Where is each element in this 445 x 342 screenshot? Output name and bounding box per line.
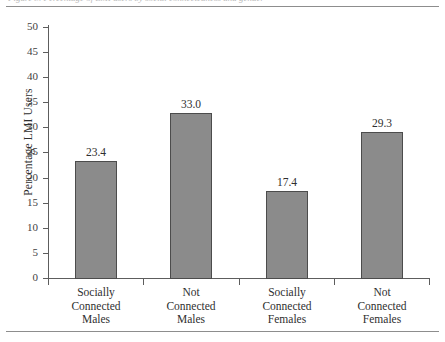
y-tick-30 — [43, 127, 48, 128]
bar-not-connected-males — [170, 113, 212, 279]
bottom-rule — [6, 331, 439, 332]
x-category-label-4-line-3: Females — [337, 313, 427, 327]
bar-value-not-connected-females: 29.3 — [352, 117, 412, 129]
bar-socially-connected-males — [75, 161, 117, 279]
y-tick-label-30: 30 — [0, 121, 38, 132]
y-axis-line — [48, 25, 49, 280]
x-category-label-2: Not Connected Males — [146, 286, 236, 327]
y-tick-35 — [43, 102, 48, 103]
x-category-label-3: Socially Connected Females — [242, 286, 332, 327]
x-category-label-4-line-1: Not — [337, 286, 427, 300]
x-category-label-3-line-2: Connected — [242, 300, 332, 314]
bar-socially-connected-females — [266, 191, 308, 279]
y-tick-label-25: 25 — [0, 146, 38, 157]
y-tick-label-15: 15 — [0, 197, 38, 208]
x-tick-divider-3 — [334, 279, 335, 285]
bar-value-not-connected-males: 33.0 — [161, 98, 221, 110]
x-category-label-1-line-2: Connected — [51, 300, 141, 314]
x-category-label-1-line-1: Socially — [51, 286, 141, 300]
x-tick-end — [429, 279, 430, 285]
x-category-label-4-line-2: Connected — [337, 300, 427, 314]
y-tick-label-5: 5 — [0, 247, 38, 258]
y-tick-20 — [43, 178, 48, 179]
y-tick-label-40: 40 — [0, 71, 38, 82]
y-tick-label-35: 35 — [0, 96, 38, 107]
x-tick-start — [48, 279, 49, 285]
x-category-label-3-line-1: Socially — [242, 286, 332, 300]
y-tick-40 — [43, 77, 48, 78]
y-tick-label-20: 20 — [0, 172, 38, 183]
y-tick-label-50: 50 — [0, 21, 38, 32]
x-tick-divider-1 — [143, 279, 144, 285]
x-category-label-1-line-3: Males — [51, 313, 141, 327]
y-tick-45 — [43, 52, 48, 53]
y-tick-15 — [43, 203, 48, 204]
y-tick-10 — [43, 228, 48, 229]
y-tick-5 — [43, 253, 48, 254]
figure-container: Figure 3. Percentage of LMI users by soc… — [0, 0, 445, 342]
x-category-label-1: Socially Connected Males — [51, 286, 141, 327]
top-rule — [6, 6, 439, 7]
y-tick-50 — [43, 27, 48, 28]
y-tick-label-10: 10 — [0, 222, 38, 233]
x-category-label-2-line-1: Not — [146, 286, 236, 300]
bar-value-socially-connected-females: 17.4 — [257, 176, 317, 188]
y-tick-25 — [43, 152, 48, 153]
y-tick-label-45: 45 — [0, 46, 38, 57]
figure-caption-clipped: Figure 3. Percentage of LMI users by soc… — [8, 0, 438, 5]
figure-caption-text: Figure 3. Percentage of LMI users by soc… — [8, 0, 264, 4]
x-category-label-2-line-3: Males — [146, 313, 236, 327]
bar-value-socially-connected-males: 23.4 — [66, 146, 126, 158]
y-tick-label-0: 0 — [0, 272, 38, 283]
x-category-label-4: Not Connected Females — [337, 286, 427, 327]
x-tick-divider-2 — [239, 279, 240, 285]
x-category-label-3-line-3: Females — [242, 313, 332, 327]
x-category-label-2-line-2: Connected — [146, 300, 236, 314]
bar-not-connected-females — [361, 132, 403, 279]
